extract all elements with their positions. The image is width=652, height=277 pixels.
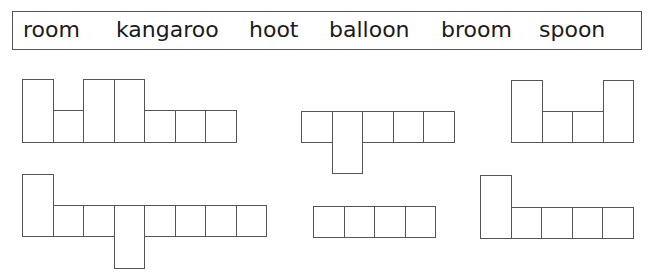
letter-box-short[interactable] [572,207,604,239]
letter-box-short[interactable] [542,111,574,143]
letter-box-short[interactable] [53,205,85,237]
word-bank-word: spoon [539,17,605,43]
letter-box-short[interactable] [423,111,455,143]
letter-box-desc[interactable] [114,205,146,269]
letter-box-short[interactable] [344,206,376,238]
letter-box-tall[interactable] [83,79,115,143]
letter-box-short[interactable] [511,207,543,239]
letter-box-short[interactable] [313,206,345,238]
letter-box-tall[interactable] [22,79,54,143]
letter-box-short[interactable] [175,205,207,237]
letter-box-short[interactable] [301,111,333,143]
word-bank-word: room [23,17,80,43]
letter-box-tall[interactable] [114,79,146,143]
letter-box-short[interactable] [362,111,394,143]
letter-box-short[interactable] [602,207,634,239]
word-bank-word: hoot [249,17,299,43]
letter-box-tall[interactable] [511,80,543,143]
letter-box-short[interactable] [236,205,268,237]
letter-box-short[interactable] [175,110,207,143]
letter-box-short[interactable] [83,205,115,237]
letter-box-short[interactable] [405,206,437,238]
word-bank-word: kangaroo [116,17,219,43]
letter-box-tall[interactable] [480,175,512,239]
letter-box-short[interactable] [572,111,604,143]
letter-box-short[interactable] [144,205,176,237]
letter-box-tall[interactable] [22,174,54,237]
letter-box-desc[interactable] [332,111,364,174]
letter-box-short[interactable] [541,207,573,239]
letter-box-short[interactable] [393,111,425,143]
letter-box-short[interactable] [374,206,406,238]
letter-box-short[interactable] [144,110,176,143]
letter-box-short[interactable] [53,110,85,143]
letter-box-short[interactable] [205,205,237,237]
letter-box-short[interactable] [205,110,237,143]
word-bank: room kangaroo hoot balloon broom spoon [12,11,642,50]
word-bank-word: broom [441,17,512,43]
word-bank-word: balloon [329,17,410,43]
letter-box-tall[interactable] [603,80,635,143]
